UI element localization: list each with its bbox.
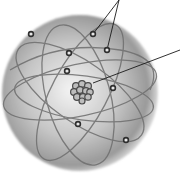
electron — [29, 32, 34, 37]
atom-diagram — [0, 0, 180, 187]
electron — [105, 48, 110, 53]
electron — [124, 138, 129, 143]
electron — [76, 122, 81, 127]
atom-diagram-svg — [0, 0, 180, 187]
electron — [67, 51, 72, 56]
electron — [91, 32, 96, 37]
electron — [111, 86, 116, 91]
electron — [65, 69, 70, 74]
